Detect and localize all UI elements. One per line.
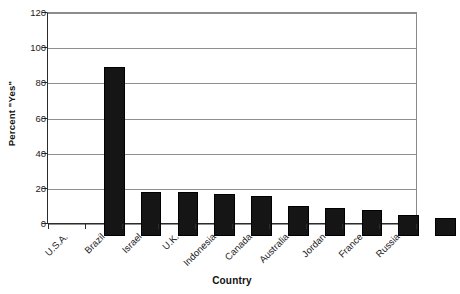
y-tick-label: 100 [2,42,46,53]
x-label-slot: Brazil [85,229,122,275]
x-label-slot: Israel [122,229,159,275]
y-tick-label: 80 [2,77,46,88]
x-axis-title: Country [48,275,416,286]
bar-slot [427,25,460,236]
y-tick-label: 120 [2,7,46,18]
plot-area [47,12,417,224]
bar[interactable] [435,218,456,236]
bar-slot [280,25,317,236]
bar[interactable] [104,67,125,236]
x-label-slot: U.S.A. [48,229,85,275]
x-tickmark [416,224,417,229]
y-tick-label: 40 [2,147,46,158]
x-tick-label-text: Brazil [82,231,107,256]
bar-slot [170,25,207,236]
x-tick-label-text: Israel [120,231,144,255]
bar-slot [133,25,170,236]
x-axis-category-labels: U.S.A.BrazilIsraelU.K.IndonesiaCanadaAus… [48,229,416,275]
x-tick-label-text: U.K. [160,231,181,252]
bar-slot [354,25,391,236]
y-tick-label: 60 [2,112,46,123]
bar-slot [390,25,427,236]
bar-slot [96,25,133,236]
x-label-slot: Russia [379,229,416,275]
gridline [48,13,416,14]
y-tick-label: 0 [2,218,46,229]
y-tick-label: 20 [2,182,46,193]
x-tick-label-text: U.S.A. [43,231,70,258]
y-axis-ticks: 020406080100120 [0,12,46,224]
bars-layer [96,25,460,236]
bar-slot [243,25,280,236]
bar-slot [317,25,354,236]
